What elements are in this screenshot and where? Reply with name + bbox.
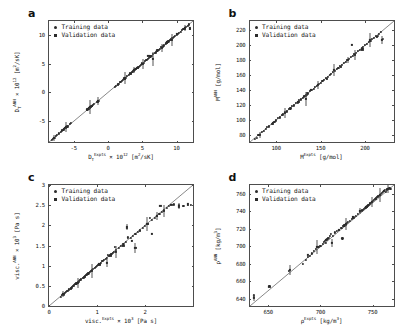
x-axis-title: MExpts [g/mol]: [300, 154, 343, 160]
y-axis-tick: [192, 225, 195, 226]
x-axis-title: DTExpts × 1012 [m2/sK]: [88, 154, 154, 160]
square-marker-icon: [54, 34, 57, 37]
validation-data-point: [184, 27, 186, 29]
validation-data-point: [147, 55, 149, 57]
y-axis-tick: [249, 90, 252, 91]
validation-data-point: [187, 203, 189, 205]
validation-data-point: [326, 77, 328, 79]
validation-data-point: [166, 41, 168, 43]
y-tick-label: 700: [201, 243, 246, 249]
square-marker-icon: [255, 34, 258, 37]
square-marker-icon: [255, 198, 258, 201]
panel-b: b80100120140160180200220100150200MExpts …: [201, 0, 401, 164]
validation-data-point: [163, 210, 165, 212]
validation-data-point: [354, 54, 356, 56]
x-tick-label: 10: [173, 145, 179, 151]
y-axis-tick: [192, 246, 195, 247]
x-tick-label: 200: [360, 145, 370, 151]
y-axis-tick: [392, 264, 395, 265]
y-tick-label: 740: [201, 208, 246, 214]
legend-entry-validation: Validation data: [54, 195, 115, 203]
validation-data-point: [297, 101, 299, 103]
y-tick-label: 3: [0, 182, 45, 188]
validation-data-point: [347, 59, 349, 61]
y-axis-tick: [48, 286, 51, 287]
validation-data-point: [126, 226, 128, 228]
legend: Training dataValidation data: [255, 187, 316, 203]
y-axis-tick: [192, 121, 195, 122]
square-marker-icon: [54, 198, 57, 201]
y-axis-tick: [48, 92, 51, 93]
legend-entry-validation: Validation data: [54, 31, 115, 39]
y-axis-tick: [392, 90, 395, 91]
x-axis-tick: [142, 141, 143, 144]
y-axis-tick: [392, 194, 395, 195]
validation-data-point: [156, 50, 158, 52]
validation-data-point: [70, 288, 72, 290]
validation-data-point: [117, 84, 119, 86]
circle-marker-icon: [54, 26, 57, 29]
validation-data-point: [316, 246, 318, 248]
validation-data-point: [352, 216, 354, 218]
y-axis-tick: [48, 266, 51, 267]
circle-marker-icon: [255, 190, 258, 193]
y-tick-label: 80: [201, 132, 246, 138]
x-tick-label: 150: [316, 145, 326, 151]
validation-data-point: [134, 247, 136, 249]
validation-data-point: [91, 269, 93, 271]
y-axis-tick: [249, 246, 252, 247]
y-axis-tick: [392, 45, 395, 46]
validation-data-point: [171, 39, 173, 41]
y-axis-tick: [192, 306, 195, 307]
y-axis-tick: [392, 299, 395, 300]
y-tick-label: 180: [201, 57, 246, 63]
x-axis-tick: [177, 20, 178, 23]
x-axis-tick: [145, 184, 146, 187]
y-axis-tick: [249, 30, 252, 31]
validation-data-point: [383, 190, 385, 192]
validation-data-point: [340, 65, 342, 67]
validation-data-point: [62, 293, 64, 295]
x-axis-title: ρExpts [kg/m3]: [301, 318, 343, 324]
validation-data-point: [307, 254, 309, 256]
y-axis-tick: [392, 135, 395, 136]
x-axis-tick: [365, 141, 366, 144]
figure-canvas: a-50510-50510DTExpts × 1012 [m2/sK]DTANN…: [0, 0, 401, 328]
x-tick-label: 100: [271, 145, 281, 151]
validation-data-point: [65, 126, 67, 128]
y-tick-label: 100: [201, 117, 246, 123]
x-tick-label: 750: [368, 309, 378, 315]
y-tick-label: 680: [201, 261, 246, 267]
panel-letter-a: a: [28, 8, 35, 19]
y-tick-label: 160: [201, 72, 246, 78]
validation-data-point: [176, 33, 178, 35]
y-axis-tick: [249, 211, 252, 212]
y-axis-tick: [192, 92, 195, 93]
x-axis-tick: [49, 305, 50, 308]
y-axis-tick: [192, 266, 195, 267]
legend-label-validation: Validation data: [62, 30, 116, 39]
y-axis-tick: [249, 281, 252, 282]
validation-data-point: [151, 58, 153, 60]
legend-entry-validation: Validation data: [255, 31, 316, 39]
validation-data-point: [268, 286, 270, 288]
validation-data-point: [178, 205, 180, 207]
y-tick-label: 5: [0, 61, 45, 67]
legend-entry-validation: Validation data: [255, 195, 316, 203]
validation-data-point: [368, 39, 370, 41]
x-tick-label: 2: [143, 309, 146, 315]
validation-data-point: [381, 39, 383, 41]
y-tick-label: 220: [201, 27, 246, 33]
y-axis-tick: [192, 286, 195, 287]
legend-label-validation: Validation data: [62, 194, 116, 203]
x-axis-tick: [373, 305, 374, 308]
y-axis-tick: [48, 246, 51, 247]
y-axis-title: visc.ANN × 103 [Pa s]: [14, 212, 20, 279]
x-tick-label: 1: [95, 309, 98, 315]
validation-data-point: [84, 275, 86, 277]
validation-data-point: [53, 137, 55, 139]
legend-label-validation: Validation data: [262, 194, 316, 203]
y-axis-tick: [249, 105, 252, 106]
validation-data-point: [375, 198, 377, 200]
validation-data-point: [331, 242, 333, 244]
